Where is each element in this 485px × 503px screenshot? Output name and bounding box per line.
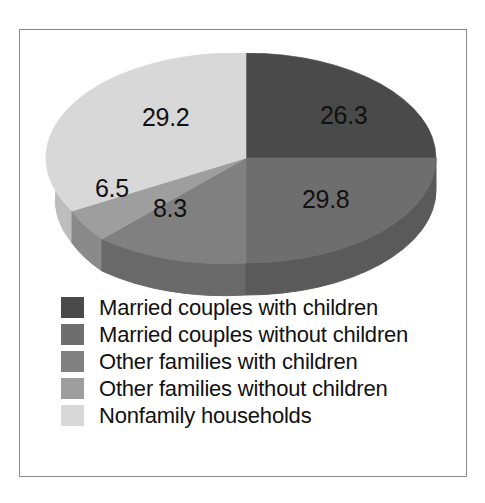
legend-swatch-other-without-children — [61, 378, 84, 399]
pie-label-other-without-children: 6.5 — [95, 176, 129, 201]
legend-item-other-without-children[interactable]: Other families without children — [61, 375, 451, 402]
legend-item-married-without-children[interactable]: Married couples without children — [61, 321, 451, 348]
chart-frame-border: 26.3 29.2 6.5 8.3 29.8 Married couples w… — [19, 29, 467, 477]
legend-label-nonfamily: Nonfamily households — [99, 405, 311, 427]
pie-label-married-with-children: 26.3 — [320, 103, 367, 128]
legend-swatch-married-without-children — [61, 324, 84, 345]
legend-item-other-with-children[interactable]: Other families with children — [61, 348, 451, 375]
pie-chart-graphic: 26.3 29.2 6.5 8.3 29.8 — [36, 53, 456, 298]
legend-swatch-nonfamily — [61, 405, 84, 426]
legend-item-married-with-children[interactable]: Married couples with children — [61, 294, 451, 321]
legend-swatch-other-with-children — [61, 351, 84, 372]
legend-label-other-with-children: Other families with children — [99, 351, 358, 373]
pie-label-nonfamily: 29.2 — [142, 105, 189, 130]
legend-label-married-without-children: Married couples without children — [99, 324, 408, 346]
legend-item-nonfamily[interactable]: Nonfamily households — [61, 402, 451, 429]
chart-legend: Married couples with children Married co… — [61, 294, 451, 429]
pie-label-married-without-children: 29.8 — [302, 187, 349, 212]
pie-top-slices — [46, 53, 436, 264]
pie-label-other-with-children: 8.3 — [153, 196, 187, 221]
pie-chart-figure: 26.3 29.2 6.5 8.3 29.8 Married couples w… — [0, 0, 485, 503]
legend-label-married-with-children: Married couples with children — [99, 297, 378, 319]
legend-label-other-without-children: Other families without children — [99, 378, 387, 400]
legend-swatch-married-with-children — [61, 297, 84, 318]
